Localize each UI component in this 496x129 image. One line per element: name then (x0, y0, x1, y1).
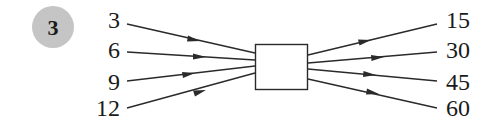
arrowhead-icon (193, 90, 206, 97)
output-label: 30 (446, 37, 470, 63)
input-label: 9 (108, 69, 120, 95)
arrowhead-icon (182, 72, 195, 78)
arrowhead-icon (193, 54, 206, 60)
arrowhead-icon (371, 55, 384, 61)
problem-number-badge: 3 (32, 6, 74, 48)
output-arrow-line (308, 24, 437, 55)
arrowhead-icon (187, 36, 200, 42)
arrowhead-icon (358, 40, 371, 46)
output-label: 15 (446, 7, 470, 33)
input-label: 3 (108, 7, 120, 33)
input-label: 12 (96, 95, 120, 121)
input-label: 6 (108, 37, 120, 63)
output-labels: 15 30 45 60 (446, 7, 470, 121)
arrowhead-icon (363, 71, 376, 77)
output-label: 45 (446, 69, 470, 95)
arrowhead-icon (366, 89, 379, 95)
function-box (256, 45, 308, 90)
input-labels: 3 6 9 12 (96, 7, 120, 121)
problem-number: 3 (48, 15, 59, 40)
output-label: 60 (446, 95, 470, 121)
input-arrows (127, 24, 255, 108)
input-arrow-line (127, 52, 255, 60)
output-arrows (308, 24, 437, 108)
function-machine-diagram: 3 3 6 9 12 15 30 45 60 (0, 0, 496, 129)
